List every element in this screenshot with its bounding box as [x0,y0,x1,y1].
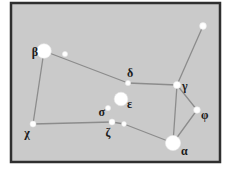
star-tail-star [200,23,207,30]
star-label-delta: δ [127,66,133,80]
star-sigma [105,105,110,110]
star-beta [37,44,52,59]
star-phi [194,107,201,114]
star-chi [30,121,36,127]
star-map-svg: βδγεσζχφα [0,0,226,171]
constellation-figure: βδγεσζχφα [0,0,226,171]
map-frame [11,3,220,162]
star-label-chi: χ [23,126,30,140]
star-label-epsilon: ε [127,97,132,111]
star-label-alpha: α [181,144,188,158]
star-label-beta: β [32,45,38,59]
star-beta-companion [62,51,67,56]
star-delta [125,80,130,85]
star-zeta-a [109,119,115,125]
star-label-sigma: σ [98,105,105,119]
star-label-phi: φ [201,108,209,122]
star-alpha [165,135,180,150]
star-gamma [173,81,180,88]
star-epsilon [114,92,128,106]
star-label-gamma: γ [181,79,188,93]
star-zeta-b [122,122,127,127]
